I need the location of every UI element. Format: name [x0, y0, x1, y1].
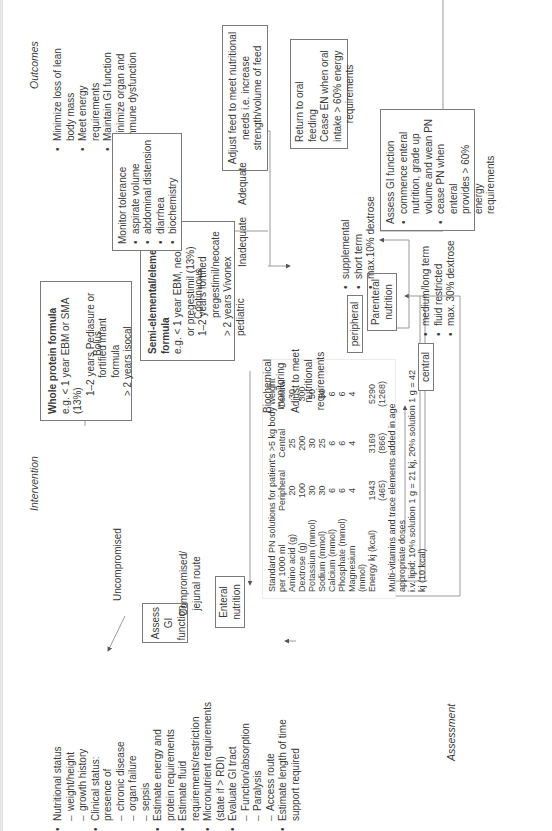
pn-cell: 6	[327, 366, 337, 418]
pn-row: Calcium (mmol)666	[327, 366, 337, 592]
assessment-item: Estimate fluidrequirements/restriction	[177, 681, 202, 831]
node-monitor-tolerance: Monitor tolerance aspirate volume abdomi…	[112, 133, 182, 251]
label-compromised: Compromised/jejunal route	[178, 551, 203, 616]
pn-cell: Energy kj (kcal)	[367, 512, 387, 592]
peripheral-items: supplemental short term max.10% dextrose	[340, 169, 378, 289]
pn-cell: 6	[337, 366, 347, 418]
assessment-heading: Assessment	[445, 704, 458, 761]
pn-cell: 30	[307, 418, 317, 465]
assessment-subitem: Access route	[265, 681, 278, 821]
pn-cell: 4	[347, 366, 367, 418]
pn-cell: Amino acid (g)	[287, 512, 297, 592]
pn-table-note1: Multi-vitamins and trace elements added …	[387, 366, 407, 592]
central-item: fluid restricted	[433, 216, 446, 336]
pn-cell: 200	[297, 418, 307, 465]
pn-row: Phosphate (mmol)666	[337, 366, 347, 592]
pn-cell: Magnesium (mmol)	[347, 512, 367, 592]
pn-cell: per 1000 ml	[277, 512, 287, 592]
label-bolus: Bolus	[92, 331, 105, 356]
assessment-subitem: organ failure	[127, 681, 140, 821]
outcome-item: Minimize organ andimmune dysfunction	[115, 11, 140, 151]
pn-table-note2: i.v. lipid: 10% solution 1 g = 21 kj, 20…	[407, 366, 427, 592]
outcome-item: Maintain GI function	[102, 11, 115, 151]
peripheral-item: supplemental	[340, 169, 353, 289]
pn-row: Magnesium (mmol)444	[347, 366, 367, 592]
monitor-item: biochemistry	[167, 140, 180, 244]
pn-cell: Potassium (mmol)	[307, 512, 317, 592]
pn-cell: 100	[297, 465, 307, 512]
peripheral-item: max.10% dextrose	[365, 169, 378, 289]
central-item: medium/long term	[420, 216, 433, 336]
node-whole-protein-formula: Whole protein formula e.g. < 1 year EBM …	[40, 281, 132, 421]
assessment-subitem: Function/absorption	[240, 681, 253, 821]
nutrition-flowchart: Assessment Intervention Outcomes Minimiz…	[0, 0, 552, 831]
assess-gi-pn-item: commence enteralnutrition, grade upvolum…	[398, 116, 436, 224]
assessment-item: Nutritional statusweight/heightgrowth hi…	[52, 681, 90, 831]
pn-row: Energy kj (kcal)1943 (465)3169 (866)5290…	[367, 366, 387, 592]
peripheral-item: short term	[353, 169, 366, 289]
pn-cell: 4	[347, 418, 367, 465]
node-assess-gi-pn: Assess GI function commence enteralnutri…	[380, 109, 475, 231]
pn-cell: 6	[327, 418, 337, 465]
pn-cell: Calcium (mmol)	[327, 512, 337, 592]
outcome-item: Meet energyrequirements	[77, 11, 102, 151]
pn-cell: Dextrose (g)	[297, 512, 307, 592]
label-inadequate: Inadequate	[237, 217, 250, 267]
pn-cell: Phosphate (mmol)	[337, 512, 347, 592]
pn-cell: 6	[337, 418, 347, 465]
top-border	[0, 0, 3, 831]
central-item: max. 30% dextrose	[445, 216, 458, 336]
pn-cell: 6	[327, 465, 337, 512]
outcome-item: Minimize loss of leanbody mass	[52, 11, 77, 151]
label-continuous: Continuous	[193, 268, 206, 319]
node-adjust-feed: Adjust feed to meet nutritionalneeds i.e…	[222, 25, 268, 171]
pn-cell: Sodium (mmol)	[317, 512, 327, 592]
monitor-item: abdominal distension	[142, 140, 155, 244]
assess-gi-pn-item: cease PN when enteralprovides > 60% ener…	[435, 116, 498, 224]
line-uncompromised	[108, 616, 125, 651]
label-uncompromised: Uncompromised	[112, 528, 125, 601]
outcomes-heading: Outcomes	[28, 41, 41, 89]
assessment-subitem: chronic disease	[115, 681, 128, 821]
assessment-list: Nutritional statusweight/heightgrowth hi…	[52, 681, 302, 831]
pn-cell: 3169 (866)	[367, 418, 387, 465]
pn-cell: 30	[307, 465, 317, 512]
pn-cell: 5290 (1268)	[367, 366, 387, 418]
assessment-item: Micronutrient requirements(state if > RD…	[202, 681, 227, 831]
assessment-item: Clinical status:presence ofchronic disea…	[90, 681, 153, 831]
label-biochemical-monitoring: Biochemicalmonitoring	[262, 359, 287, 413]
monitor-item: diarrhea	[155, 140, 168, 244]
assessment-subitem: Paralysis	[252, 681, 265, 821]
label-adjust-requirements: Adjust to meetnutritionalrequirements	[290, 349, 328, 413]
node-peripheral: peripheral	[347, 295, 363, 353]
pn-cell: 6	[337, 465, 347, 512]
label-adequate: Adequate	[237, 162, 250, 205]
outcomes-list: Minimize loss of leanbody mass Meet ener…	[52, 11, 140, 151]
pn-cell: Central	[277, 418, 287, 465]
pn-cell: 20	[287, 465, 297, 512]
assessment-item: Estimate length of timesupport required	[277, 681, 302, 831]
assessment-subitem: weight/height	[65, 681, 78, 821]
central-items: medium/long term fluid restricted max. 3…	[420, 216, 458, 336]
pn-cell: 1943 (465)	[367, 465, 387, 512]
monitor-item: aspirate volume	[130, 140, 143, 244]
assessment-item: Estimate energy andprotein requirements	[152, 681, 177, 831]
pn-cell: 30	[317, 465, 327, 512]
assessment-subitem: growth history	[77, 681, 90, 821]
pn-cell: 25	[317, 418, 327, 465]
node-return-oral: Return to oral feedingCease EN when oral…	[290, 39, 348, 149]
node-enteral-nutrition: Enteralnutrition	[215, 576, 245, 628]
intervention-heading: Intervention	[28, 456, 41, 511]
pn-cell: 4	[347, 465, 367, 512]
assessment-item: Evaluate GI tractFunction/absorptionPara…	[227, 681, 277, 831]
pn-cell: Peripheral	[277, 465, 287, 512]
pn-cell: 25	[287, 418, 297, 465]
assessment-subitem: sepsis	[140, 681, 153, 821]
